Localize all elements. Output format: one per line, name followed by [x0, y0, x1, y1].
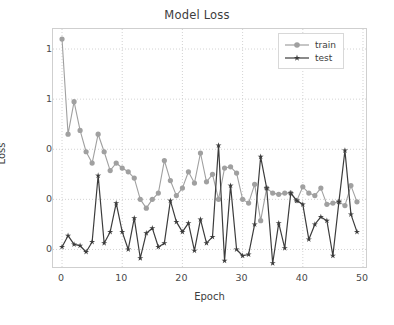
point-train-37 [282, 190, 287, 195]
legend-marker-train-icon [284, 39, 310, 51]
point-train-36 [276, 192, 281, 197]
point-test-16 [155, 244, 161, 250]
point-train-25 [210, 172, 215, 177]
point-train-13 [138, 197, 143, 202]
y-axis-label: Loss [0, 143, 7, 165]
x-axis-label: Epoch [52, 291, 367, 302]
point-train-1 [65, 132, 70, 137]
legend-label-test: test [315, 53, 332, 63]
point-test-19 [173, 219, 179, 225]
point-train-12 [132, 175, 137, 180]
point-test-35 [270, 260, 276, 266]
x-tick-10: 10 [106, 272, 136, 283]
point-train-4 [84, 149, 89, 154]
point-test-13 [137, 255, 143, 261]
x-tick-40: 40 [287, 272, 317, 283]
point-test-5 [89, 239, 95, 245]
point-train-17 [162, 158, 167, 163]
point-train-21 [186, 169, 191, 174]
point-train-27 [222, 165, 227, 170]
data-series-layer [59, 36, 360, 265]
x-tick-50: 50 [347, 272, 377, 283]
point-train-0 [59, 36, 64, 41]
point-train-6 [96, 132, 101, 137]
legend-item-train[interactable]: train [284, 38, 336, 51]
point-train-40 [300, 184, 305, 189]
point-train-2 [71, 99, 76, 104]
point-train-47 [342, 203, 347, 208]
point-test-37 [282, 245, 288, 251]
point-test-7 [101, 240, 107, 246]
x-tick-20: 20 [166, 272, 196, 283]
point-test-11 [125, 246, 131, 252]
legend-item-test[interactable]: test [284, 51, 336, 64]
point-train-14 [144, 206, 149, 211]
point-train-44 [324, 202, 329, 207]
chart-figure: Model Loss Loss Epoch 0.40.60.81.01.2 01… [0, 0, 394, 325]
point-train-32 [252, 182, 257, 187]
point-train-8 [108, 168, 113, 173]
point-train-3 [77, 128, 82, 133]
point-train-24 [204, 179, 209, 184]
point-train-10 [120, 165, 125, 170]
point-train-16 [156, 190, 161, 195]
line-test [62, 145, 357, 263]
point-train-45 [330, 201, 335, 206]
chart-title: Model Loss [0, 8, 394, 22]
point-train-20 [180, 185, 185, 190]
legend-label-train: train [315, 40, 336, 50]
point-train-26 [216, 197, 221, 202]
point-test-45 [330, 253, 336, 259]
x-tick-0: 0 [46, 272, 76, 283]
point-train-30 [240, 197, 245, 202]
point-train-5 [90, 160, 95, 165]
point-train-28 [228, 164, 233, 169]
point-test-31 [246, 251, 252, 257]
point-test-22 [191, 248, 197, 254]
point-train-33 [258, 218, 263, 223]
point-train-48 [348, 183, 353, 188]
legend-marker-test-icon [284, 52, 310, 64]
point-test-27 [222, 258, 228, 264]
point-train-35 [270, 190, 275, 195]
chart-legend: traintest [278, 33, 344, 69]
x-tick-30: 30 [227, 272, 257, 283]
point-train-19 [174, 193, 179, 198]
point-train-49 [354, 199, 359, 204]
point-train-18 [168, 178, 173, 183]
point-train-22 [192, 180, 197, 185]
point-test-1 [65, 232, 71, 238]
point-train-31 [246, 201, 251, 206]
point-train-23 [198, 150, 203, 155]
series-test [59, 142, 360, 266]
point-test-41 [306, 236, 312, 242]
point-train-7 [102, 149, 107, 154]
point-train-29 [234, 170, 239, 175]
point-test-8 [107, 229, 113, 235]
point-train-41 [306, 190, 311, 195]
point-train-11 [126, 169, 131, 174]
point-train-42 [312, 193, 317, 198]
point-test-49 [354, 229, 360, 235]
point-train-43 [318, 185, 323, 190]
point-train-15 [150, 197, 155, 202]
point-train-9 [114, 160, 119, 165]
